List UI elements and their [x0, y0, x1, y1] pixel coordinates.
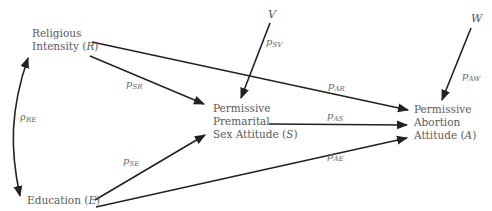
node-symbol: A: [465, 129, 473, 141]
node-abortion-attitude: Permissive Abortion Attitude (A): [414, 103, 476, 142]
label-rho-re: ρRE: [20, 111, 36, 124]
node-label: ): [96, 194, 100, 206]
label-p-sv: pSV: [266, 36, 282, 49]
edge-e-to-s: [95, 135, 205, 200]
node-symbol: E: [88, 194, 96, 206]
label-p-sr: ρpSR: [126, 78, 142, 91]
node-label: ): [94, 40, 98, 52]
label-p-se: pSE: [123, 155, 139, 168]
label-p-ae: pAE: [327, 150, 344, 163]
node-religious-intensity: Religious Intensity (R): [32, 27, 98, 53]
node-v: V: [268, 8, 276, 21]
node-w: W: [471, 12, 482, 25]
node-label: Permissive: [414, 103, 476, 116]
node-label: Abortion: [414, 116, 476, 129]
node-label: Religious: [32, 27, 81, 39]
node-label: Permissive: [213, 102, 298, 115]
node-label: Attitude (: [414, 129, 465, 141]
edge-r-e-correlation: [13, 58, 28, 196]
node-label: ): [472, 129, 476, 141]
node-label: Premarital: [213, 115, 298, 128]
label-p-aw: pAW: [462, 70, 480, 83]
node-premarital-sex-attitude: Permissive Premarital Sex Attitude (S): [213, 102, 298, 141]
node-label: Education (: [27, 194, 88, 206]
label-p-ar: pAR: [328, 80, 345, 93]
node-label: ): [293, 128, 297, 140]
node-education: Education (E): [27, 194, 100, 207]
edge-v-to-s: [241, 23, 270, 98]
node-label: Sex Attitude (: [213, 128, 286, 140]
edge-w-to-a: [442, 28, 471, 100]
node-label: Intensity (: [32, 40, 86, 52]
label-p-as: pAS: [327, 110, 343, 123]
